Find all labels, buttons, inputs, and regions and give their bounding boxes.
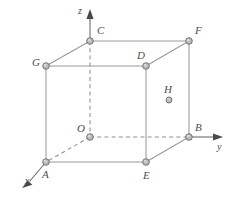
point-label-E: E <box>143 170 150 181</box>
point-label-H: H <box>164 84 172 95</box>
edge-O-A <box>46 137 90 162</box>
point-label-F: F <box>195 25 202 36</box>
vertex-marker-F <box>186 38 193 45</box>
vertex-markers-group <box>43 38 193 166</box>
point-label-G: G <box>32 57 40 68</box>
vertex-marker-C <box>87 38 94 45</box>
point-label-A: A <box>42 169 49 180</box>
point-label-B: B <box>195 122 202 133</box>
point-label-D: D <box>137 50 145 61</box>
edge-E-B <box>146 137 189 162</box>
point-label-O: O <box>77 123 85 134</box>
axis-group <box>22 9 223 188</box>
cube-coordinate-figure: O A B C D E F G H x y z <box>0 0 233 198</box>
vertex-marker-B <box>186 134 193 141</box>
point-label-C: C <box>97 25 104 36</box>
z-axis-arrowhead <box>86 9 93 19</box>
vertex-marker-E <box>143 159 150 166</box>
vertex-marker-D <box>143 63 150 70</box>
vertex-marker-A <box>43 159 50 166</box>
edge-D-F <box>146 41 189 66</box>
z-axis-label: z <box>78 6 82 16</box>
y-axis-label: y <box>217 142 221 152</box>
vertex-marker-O <box>87 134 94 141</box>
vertex-marker-G <box>43 63 50 70</box>
edge-C-G <box>46 41 90 66</box>
x-axis-label: x <box>25 176 29 186</box>
y-axis-arrowhead <box>213 133 223 140</box>
vertex-marker-H <box>166 97 172 103</box>
